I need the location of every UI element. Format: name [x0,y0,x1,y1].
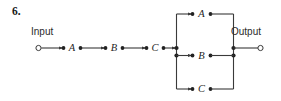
input-terminal-label: Input [31,27,53,37]
output-lead [234,45,264,50]
series-segment-b-to-c [121,46,149,50]
figure-container: 6. [0,0,281,101]
series-block-label-c: C [151,43,158,54]
series-block-label-b: B [111,43,117,54]
series-segment-c-to-bus [162,46,176,50]
output-terminal-label: Output [231,27,261,37]
input-terminal [36,45,41,50]
parallel-left-bus [174,14,178,89]
series-segment-a-to-b [79,46,108,50]
series-block-label-a: A [69,43,75,54]
parallel-block-label-c: C [198,84,205,95]
parallel-branch-a [177,12,234,16]
series-segment-input-to-a [41,46,65,50]
parallel-branch-b [177,54,234,58]
block-diagram-svg [0,0,281,101]
parallel-block-label-b: B [198,50,204,61]
parallel-block-label-a: A [198,9,204,20]
